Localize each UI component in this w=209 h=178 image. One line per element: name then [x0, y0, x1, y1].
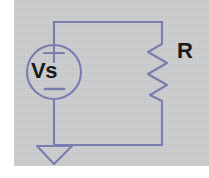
schematic-drawing — [0, 0, 209, 178]
circuit-diagram-canvas: Vs R — [0, 0, 209, 178]
voltage-source-label: Vs — [31, 60, 57, 82]
ground-triangle-icon — [37, 146, 72, 164]
resistor-label: R — [177, 40, 193, 62]
resistor-zigzag-icon — [148, 40, 167, 106]
